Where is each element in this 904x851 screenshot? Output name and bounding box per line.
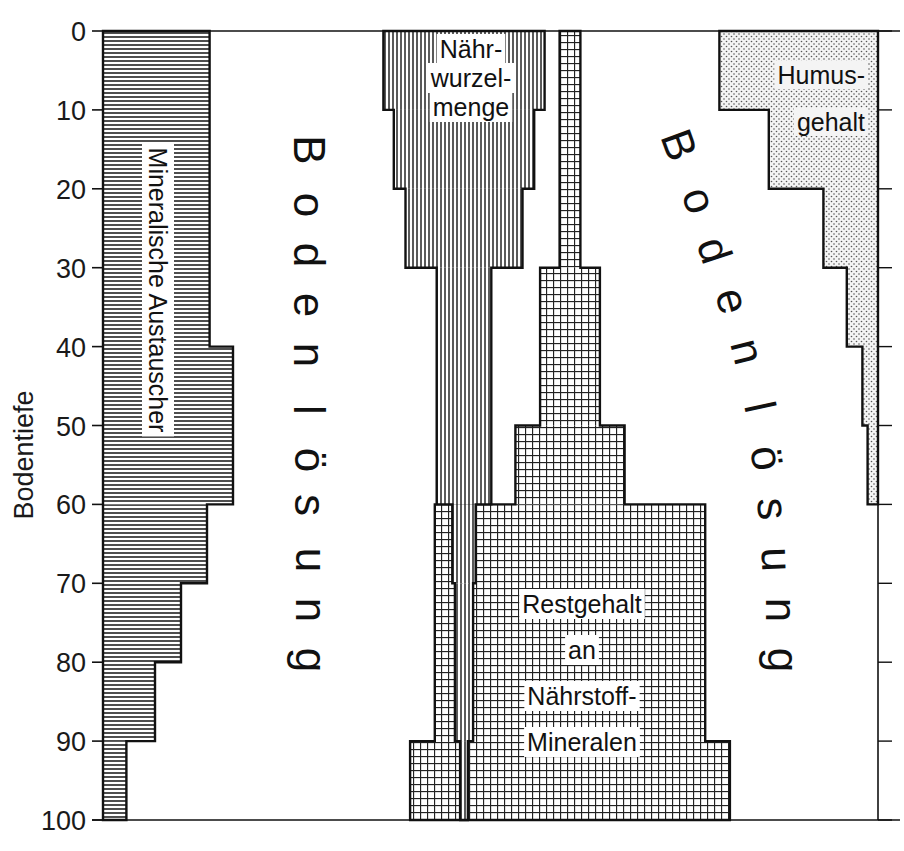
y-tick-label: 70 (56, 569, 86, 599)
bodenloesung-left-label: Bodenlösung (285, 135, 336, 672)
profile-band (437, 268, 492, 505)
bodenloesung-letter: ö (286, 448, 335, 472)
bodenloesung-letter: n (721, 333, 774, 369)
bodenloesung-letter: B (285, 135, 334, 164)
bodenloesung-letter: l (735, 397, 785, 417)
bodenloesung-letter: u (287, 548, 336, 572)
label-line: menge (433, 93, 509, 121)
bodenloesung-letter: e (706, 282, 760, 319)
bodenloesung-letter: n (287, 598, 336, 622)
bodenloesung-letter: n (757, 598, 806, 622)
label-line: Restgehalt (522, 590, 642, 618)
label-line: Mineralen (527, 728, 637, 756)
profile-band (103, 741, 126, 820)
bodenloesung-letter: g (759, 648, 808, 672)
profile-band (862, 347, 878, 426)
bodenloesung-letter: s (748, 496, 799, 522)
label-line: gehalt (797, 108, 865, 136)
soil-depth-diagram: 0102030405060708090100Bodentiefe Nähr-wu… (0, 0, 904, 851)
y-tick-label: 40 (56, 333, 86, 363)
y-tick-label: 0 (71, 17, 86, 47)
bodenloesung-letter: B (652, 123, 708, 167)
y-tick-label: 50 (56, 412, 86, 442)
label-line: Humus- (777, 61, 865, 89)
profile-band (452, 504, 475, 583)
profile-band (406, 189, 523, 268)
bodenloesung-letter: d (285, 243, 334, 267)
profile-band (540, 268, 600, 426)
bodenloesung-letter: l (285, 405, 334, 415)
profile-band (103, 504, 207, 583)
label-line: Nährstoff- (527, 682, 636, 710)
bodenloesung-letter: s (286, 494, 335, 516)
profile-band (847, 268, 878, 347)
y-tick-label: 30 (56, 254, 86, 284)
bodenloesung-letter: e (285, 293, 334, 317)
y-axis-title: Bodentiefe (9, 390, 39, 519)
profile-band (823, 189, 878, 268)
mineral-austauscher-label: Mineralische Austauscher (142, 144, 174, 437)
bodenloesung-letter: o (285, 193, 334, 217)
y-tick-label: 10 (56, 96, 86, 126)
naehrwurzelmenge-label: Nähr-wurzel-menge (427, 34, 515, 122)
bodenloesung-letter: n (285, 343, 334, 367)
label-line: Nähr- (440, 35, 503, 63)
y-tick-label: 60 (56, 490, 86, 520)
bodenloesung-letter: o (673, 181, 727, 219)
profile-band (455, 583, 473, 741)
y-tick-label: 80 (56, 648, 86, 678)
label-line: wurzel- (430, 64, 512, 92)
y-tick-label: 100 (41, 806, 86, 836)
profile-band (103, 583, 181, 662)
profile-band (560, 31, 581, 268)
label-line: an (568, 636, 596, 664)
bodenloesung-letter: d (688, 231, 742, 269)
humusgehalt-profile (719, 31, 878, 504)
label-line: Mineralische Austauscher (144, 148, 172, 433)
profile-band (103, 662, 155, 741)
y-tick-label: 90 (56, 727, 86, 757)
profile-band (515, 426, 624, 505)
bodenloesung-letter: g (287, 648, 336, 672)
bodenloesung-letter: u (753, 546, 803, 572)
bodenloesung-letter: ö (741, 442, 793, 473)
y-tick-label: 20 (56, 175, 86, 205)
profile-band (868, 426, 878, 505)
